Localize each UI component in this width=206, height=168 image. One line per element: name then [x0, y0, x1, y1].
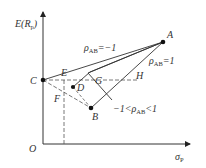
- y-axis-label: E(Rp): [14, 18, 38, 30]
- point-D: [71, 85, 75, 89]
- label-F: F: [53, 93, 61, 104]
- label-C: C: [30, 75, 37, 86]
- label-D: D: [76, 82, 85, 93]
- label-B: B: [92, 111, 98, 122]
- annotation-rho-neg1: ρAB=−1: [83, 42, 116, 54]
- point-B: [89, 106, 94, 111]
- label-G: G: [95, 75, 102, 86]
- origin-label: O: [29, 143, 36, 154]
- annotation-rho-pos1: ρAB=1: [148, 55, 175, 67]
- portfolio-frontier-diagram: E(Rp) σP O A B C D E F G H ρAB=−1 ρAB=1 …: [0, 0, 206, 168]
- point-C: [41, 78, 46, 83]
- label-E: E: [60, 67, 67, 78]
- x-axis-label: σP: [175, 151, 184, 163]
- label-A: A: [166, 29, 174, 40]
- point-A: [161, 40, 166, 45]
- annotation-rho-mid: −1<ρAB<1: [113, 103, 157, 115]
- label-H: H: [135, 70, 144, 81]
